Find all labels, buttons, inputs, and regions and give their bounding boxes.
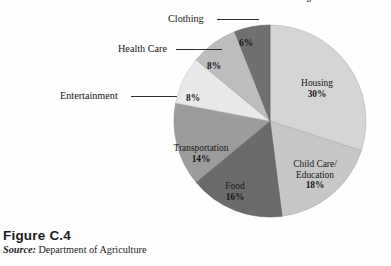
source-prefix: Source: (3, 244, 36, 255)
slice-label-child-care-education: Child Care/ Education 18% (278, 159, 352, 191)
slice-label-child-care-percent: 18% (278, 180, 352, 191)
slice-label-housing-percent: 30% (286, 89, 348, 100)
figure-caption: Figure C.4 Source: Department of Agricul… (3, 229, 233, 255)
callout-label-entertainment: Entertainment (60, 90, 118, 101)
slice-label-food: Food 16% (210, 181, 260, 202)
figure-number: Figure C.4 (3, 229, 233, 243)
slice-label-child-care-line2: Education (278, 170, 352, 181)
slice-label-housing: Housing 30% (286, 78, 348, 99)
slice-label-transportation: Transportation 14% (157, 143, 245, 164)
figure-page: Breakdown of the Cost of Raising a Child… (0, 0, 391, 266)
leader-line-health-care (176, 49, 222, 50)
slice-label-entertainment-percent: 8% (178, 93, 208, 104)
chart-title: Breakdown of the Cost of Raising a Child (150, 0, 380, 2)
slice-label-health-care-percent: 8% (200, 61, 228, 72)
slice-label-child-care-line1: Child Care/ (278, 159, 352, 170)
slice-label-clothing-percent: 6% (232, 38, 260, 49)
callout-label-clothing: Clothing (168, 13, 204, 24)
callout-label-health-care: Health Care (118, 43, 167, 54)
leader-line-entertainment (131, 96, 177, 97)
slice-label-food-name: Food (210, 181, 260, 192)
leader-line-clothing (217, 19, 259, 20)
slice-label-food-percent: 16% (210, 192, 260, 203)
figure-source: Source: Department of Agriculture (3, 244, 233, 255)
source-text: Department of Agriculture (36, 244, 147, 255)
slice-label-transportation-name: Transportation (157, 143, 245, 154)
slice-label-transportation-percent: 14% (157, 154, 245, 165)
slice-label-housing-name: Housing (286, 78, 348, 89)
